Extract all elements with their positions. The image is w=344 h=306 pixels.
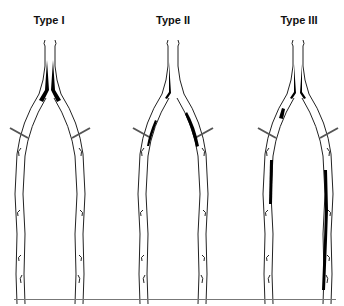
type-1-diagram: [10, 40, 90, 304]
bottom-rule: [14, 299, 336, 300]
type-2-diagram: [133, 40, 213, 304]
type-3-diagram: [258, 40, 338, 304]
arterial-diagram: [0, 0, 344, 306]
